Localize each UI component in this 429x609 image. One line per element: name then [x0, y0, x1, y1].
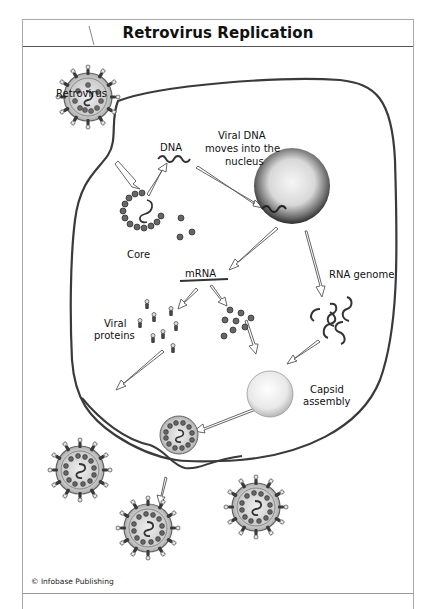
publisher-credit: © Infobase Publishing — [31, 577, 114, 586]
footer-divider — [23, 593, 413, 594]
figure-title: Retrovirus Replication — [123, 24, 314, 42]
figure-frame: Retrovirus Replication © Infobase Publis… — [22, 19, 414, 609]
title-bar: Retrovirus Replication — [23, 20, 413, 47]
